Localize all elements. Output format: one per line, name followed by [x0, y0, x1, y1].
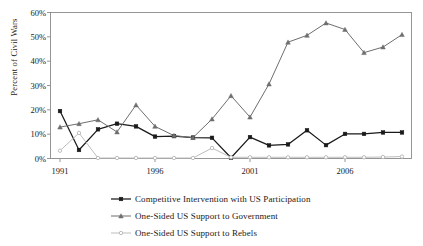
legend-marker-icon	[110, 193, 132, 205]
legend-label: One-Sided US Support to Government	[132, 211, 278, 221]
x-tick-label: 2006	[337, 166, 354, 176]
axis-ticks	[47, 13, 345, 163]
series-line-0	[58, 109, 404, 159]
series-line-2	[58, 131, 403, 159]
legend-marker-icon	[110, 210, 132, 222]
series-line-1	[58, 21, 405, 140]
legend-label: Competitive Intervention with US Partici…	[132, 194, 311, 204]
legend-marker-icon	[110, 227, 132, 239]
x-tick-label: 1991	[52, 166, 69, 176]
legend-item-2[interactable]: One-Sided US Support to Rebels	[110, 224, 410, 241]
legend-label: One-Sided US Support to Rebels	[132, 228, 257, 238]
legend-item-0[interactable]: Competitive Intervention with US Partici…	[110, 190, 410, 207]
legend-item-1[interactable]: One-Sided US Support to Government	[110, 207, 410, 224]
data-series-group	[58, 21, 405, 160]
chart-figure: Percent of Civil Wars 0%10%20%30%40%50%6…	[0, 0, 423, 246]
x-tick-label: 2001	[242, 166, 259, 176]
plot-frame	[51, 13, 412, 159]
x-tick-label: 1996	[147, 166, 164, 176]
chart-legend: Competitive Intervention with US Partici…	[110, 190, 410, 241]
